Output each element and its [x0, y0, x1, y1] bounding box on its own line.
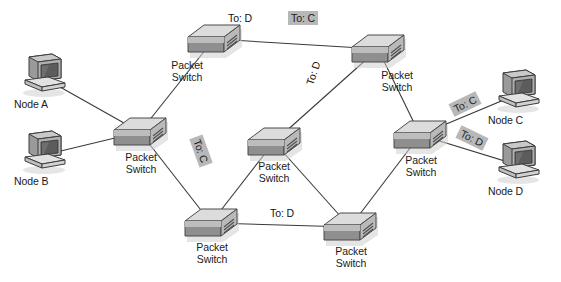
packet-switch-icon[interactable]	[186, 19, 244, 59]
packet-switch-icon[interactable]	[183, 203, 241, 243]
computer-node-label: Node D	[488, 185, 523, 197]
packet-switch-icon[interactable]	[112, 112, 170, 152]
computer-node-icon[interactable]	[494, 68, 542, 114]
computer-node-label: Node C	[488, 114, 523, 126]
packet-switch-icon[interactable]	[246, 122, 304, 162]
packet-destination-label: To: C	[189, 135, 212, 168]
computer-node-icon[interactable]	[494, 139, 542, 185]
packet-switch-icon[interactable]	[350, 29, 408, 69]
packet-switch-label: Packet Switch	[158, 60, 216, 83]
packet-switch-label: Packet Switch	[322, 246, 380, 269]
computer-node-label: Node A	[14, 98, 48, 110]
packet-switch-label: Packet Switch	[245, 161, 303, 184]
packet-destination-label: To: D	[267, 206, 297, 220]
packet-destination-label: To: C	[448, 91, 481, 117]
packet-destination-label: To: C	[288, 11, 318, 25]
packet-switch-icon[interactable]	[322, 207, 380, 247]
network-nodes-layer: Packet Switch Packet Switch Packet Switc…	[0, 0, 561, 282]
packet-switch-label: Packet Switch	[183, 242, 241, 265]
packet-destination-label: To: D	[225, 11, 255, 25]
packet-switch-icon[interactable]	[392, 115, 450, 155]
packet-destination-label: To: D	[455, 125, 488, 151]
network-diagram: Packet Switch Packet Switch Packet Switc…	[0, 0, 561, 282]
computer-node-label: Node B	[14, 175, 48, 187]
packet-switch-label: Packet Switch	[392, 155, 450, 178]
computer-node-icon[interactable]	[20, 52, 68, 98]
packet-switch-label: Packet Switch	[368, 70, 426, 93]
packet-switch-label: Packet Switch	[112, 152, 170, 175]
computer-node-icon[interactable]	[20, 129, 68, 175]
packet-destination-label: To: D	[302, 57, 325, 90]
